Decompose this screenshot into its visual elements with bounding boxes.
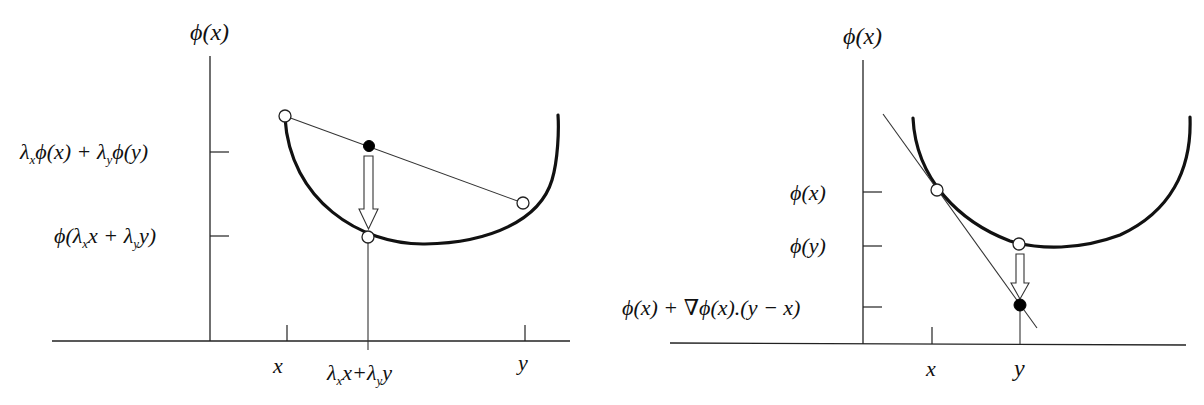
left-y-tick-label-function: ϕ(λxx + λyy) (54, 223, 156, 251)
right-y-tick-label-tangent: ϕ(x) + ∇ϕ(x).(y − x) (622, 295, 800, 320)
left-x-tick-label-y: y (516, 350, 528, 375)
right-convex-curve (913, 117, 1190, 247)
left-y-axis-label: ϕ(x) (190, 19, 229, 45)
right-down-arrow-icon (1011, 254, 1029, 299)
left-chord-line (285, 116, 523, 203)
right-tangent-line (883, 114, 1037, 328)
right-x-axis (670, 343, 1186, 345)
left-point-function (362, 231, 374, 243)
figure-canvas: ϕ(x) λxϕ(x) + λyϕ(y) ϕ(λxx + λyy) x λxx+… (0, 0, 1204, 405)
right-y-tick-label-phi-y: ϕ(y) (790, 233, 826, 258)
left-down-arrow-icon (359, 156, 378, 229)
left-convex-curve (285, 115, 558, 244)
left-point-chord (364, 141, 375, 152)
right-point-tangent (1014, 299, 1026, 311)
right-y-axis-label: ϕ(x) (843, 23, 882, 49)
right-x-tick-label-x: x (925, 356, 936, 381)
left-point-x (279, 110, 291, 122)
left-panel: ϕ(x) λxϕ(x) + λyϕ(y) ϕ(λxx + λyy) x λxx+… (19, 19, 570, 388)
left-y-tick-label-chord: λxϕ(x) + λyϕ(y) (19, 139, 148, 167)
right-y-tick-label-phi-x: ϕ(x) (790, 180, 826, 205)
left-x-tick-label-combination: λxx+λyy (326, 360, 392, 388)
left-x-tick-label-x: x (272, 353, 283, 378)
left-point-y (517, 197, 529, 209)
right-panel: ϕ(x) ϕ(x) ϕ(y) ϕ(x) + ∇ϕ(x).(y − x) x y (622, 23, 1190, 381)
right-x-tick-label-y: y (1012, 355, 1025, 381)
right-point-y (1013, 238, 1025, 250)
right-point-x (931, 184, 943, 196)
